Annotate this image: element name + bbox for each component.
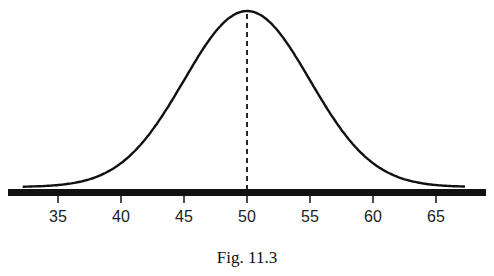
- figure-caption: Fig. 11.3: [0, 248, 494, 268]
- x-tick-label: 50: [238, 208, 256, 225]
- x-axis-ticks: 35404550556065: [49, 196, 445, 225]
- normal-curve-chart: 35404550556065: [0, 0, 494, 240]
- x-tick-label: 40: [112, 208, 130, 225]
- normal-curve: [23, 11, 465, 187]
- x-tick-label: 60: [364, 208, 382, 225]
- x-tick-label: 35: [49, 208, 67, 225]
- x-tick-label: 45: [175, 208, 193, 225]
- x-axis-bar: [8, 189, 486, 196]
- x-tick-label: 55: [301, 208, 319, 225]
- x-tick-label: 65: [427, 208, 445, 225]
